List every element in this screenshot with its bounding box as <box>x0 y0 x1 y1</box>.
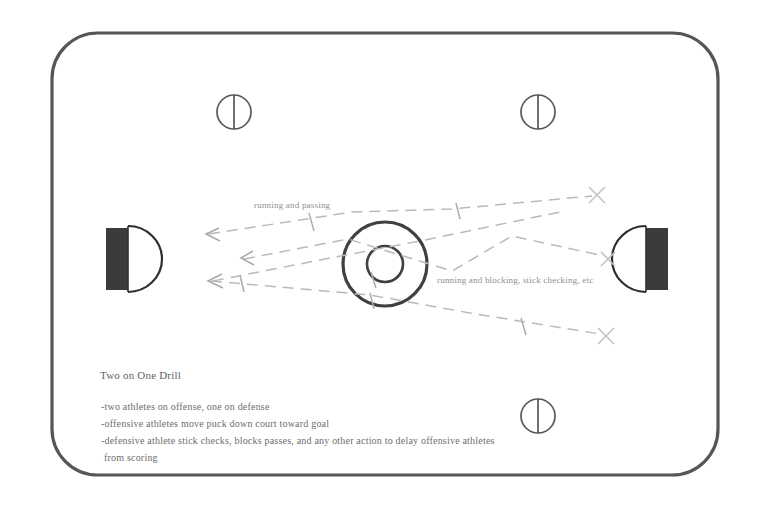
tick-mark <box>309 213 314 231</box>
tick-mark <box>240 275 244 292</box>
faceoff-bottom-right <box>521 399 555 433</box>
drill-diagram-page: running and passing running and blocking… <box>0 0 768 514</box>
x-marker-bottom-right <box>598 328 614 344</box>
path-blocking-zigzag <box>244 236 604 271</box>
x-marker-top-right <box>589 187 605 203</box>
faceoff-top-left <box>217 95 251 129</box>
drill-title: Two on One Drill <box>100 369 181 381</box>
path-offense-lower <box>211 281 600 334</box>
drill-description-line: -two athletes on offense, one on defense <box>101 401 270 412</box>
drill-description-line: -offensive athletes move puck down court… <box>101 418 329 429</box>
tick-mark <box>456 203 460 219</box>
tick-mark <box>521 318 526 335</box>
faceoff-top-right <box>521 95 555 129</box>
annotation-running-and-passing: running and passing <box>254 200 330 210</box>
arrowhead-upper-left <box>206 228 220 241</box>
goal-left <box>106 226 162 292</box>
drill-description-line: from scoring <box>104 452 158 463</box>
drill-description-line: -defensive athlete stick checks, blocks … <box>101 435 495 446</box>
goal-right <box>612 226 668 292</box>
annotation-running-and-blocking: running and blocking, stick checking, et… <box>437 275 593 285</box>
